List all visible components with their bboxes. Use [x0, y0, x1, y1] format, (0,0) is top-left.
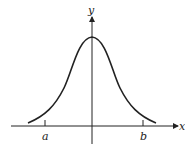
tick-label-a: a	[42, 130, 49, 143]
bell-curve-diagram: x y a b	[0, 0, 185, 150]
tick-label-b: b	[140, 130, 147, 143]
x-axis-label: x	[179, 120, 185, 133]
y-axis-label: y	[87, 4, 95, 17]
